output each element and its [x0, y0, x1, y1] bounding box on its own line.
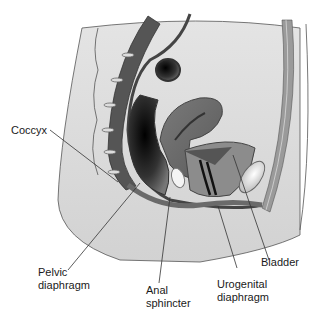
label-bladder: Bladder	[261, 256, 299, 269]
label-coccyx: Coccyx	[11, 124, 47, 137]
label-urogenital-diaphragm: Urogenital diaphragm	[217, 278, 269, 304]
label-anal-sphincter: Anal sphincter	[146, 284, 191, 310]
sigmoid-colon	[156, 59, 180, 81]
label-pelvic-diaphragm: Pelvic diaphragm	[38, 266, 90, 292]
